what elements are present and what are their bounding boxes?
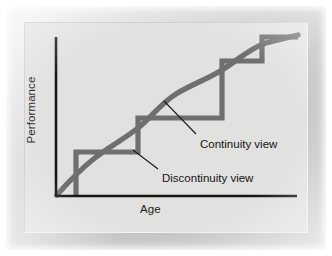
- y-axis-label: Performance: [25, 63, 37, 157]
- leader-line-discontinuity: [133, 150, 158, 169]
- x-axis-label: Age: [140, 203, 161, 215]
- annotation-continuity-view: Continuity view: [200, 138, 277, 150]
- annotation-discontinuity-view: Discontinuity view: [162, 172, 253, 184]
- figure-screenshot: Performance Age Continuity view Disconti…: [0, 0, 332, 256]
- chart-graphics: [0, 0, 332, 256]
